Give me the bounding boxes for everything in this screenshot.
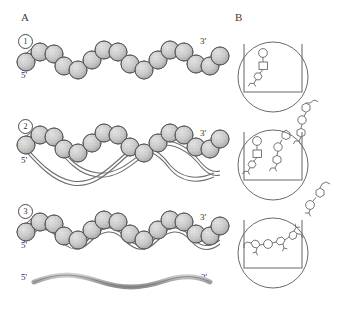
chromatin-row-3 bbox=[18, 200, 223, 268]
molecule-chain-in-vessel-3 bbox=[244, 224, 303, 256]
panel-b-letter: B bbox=[235, 11, 243, 23]
chromatin-row-2 bbox=[18, 115, 223, 190]
chromatin-row-1 bbox=[18, 30, 223, 88]
naked-dna-strand bbox=[18, 270, 223, 294]
panel-a-letter: A bbox=[21, 11, 29, 23]
molecule-in-vessel-1 bbox=[248, 49, 267, 87]
vessel-unit-3 bbox=[232, 212, 314, 294]
molecule-in-vessel-2b bbox=[269, 130, 290, 171]
molecule-in-vessel-2a bbox=[242, 137, 261, 175]
